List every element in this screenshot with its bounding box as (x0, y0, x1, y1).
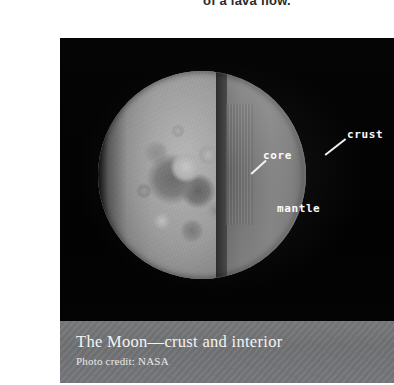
moon-disc-edge (98, 71, 306, 279)
crust-leader-line (325, 138, 346, 155)
annotation-label-core: core (263, 149, 292, 162)
caption-photo-credit: Photo credit: NASA (76, 355, 169, 367)
caption-band-texture (60, 321, 394, 383)
annotation-label-crust: crust (347, 128, 383, 141)
moon-figure: crust core mantle The Moon—crust and int… (60, 38, 394, 383)
moon-diagram (98, 71, 306, 279)
page-heading: of a lava flow. (0, 0, 374, 7)
page-heading-text: of a lava flow. (0, 0, 374, 7)
figure-caption-band: The Moon—crust and interior Photo credit… (60, 321, 394, 383)
moon-disc (98, 71, 306, 279)
caption-title: The Moon—crust and interior (76, 332, 283, 352)
annotation-label-mantle: mantle (277, 202, 320, 215)
